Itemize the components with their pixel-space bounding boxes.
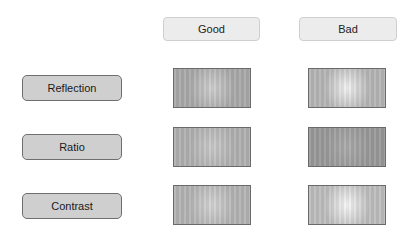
sample-image-ratio-bad xyxy=(308,127,386,167)
column-header-good-label: Good xyxy=(198,23,225,35)
row-label-ratio: Ratio xyxy=(22,134,122,160)
column-header-good: Good xyxy=(163,17,260,41)
sample-image-contrast-good xyxy=(173,185,251,225)
sample-image-reflection-good xyxy=(173,68,251,108)
row-label-reflection: Reflection xyxy=(22,75,122,101)
row-label-ratio-text: Ratio xyxy=(59,141,85,153)
column-header-bad-label: Bad xyxy=(338,23,358,35)
row-label-reflection-text: Reflection xyxy=(48,82,97,94)
column-header-bad: Bad xyxy=(299,17,397,41)
row-label-contrast: Contrast xyxy=(22,193,122,219)
sample-image-reflection-bad xyxy=(308,68,386,108)
row-label-contrast-text: Contrast xyxy=(51,200,93,212)
sample-image-contrast-bad xyxy=(308,185,386,225)
sample-image-ratio-good xyxy=(173,127,251,167)
